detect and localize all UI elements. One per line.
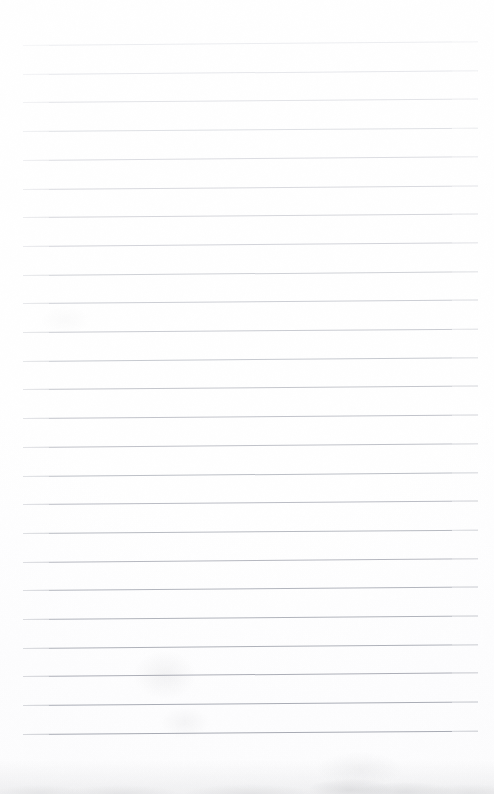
ruled-line <box>23 185 478 190</box>
ruled-line <box>23 99 478 103</box>
ruled-line <box>23 586 478 591</box>
ruled-line <box>23 357 478 362</box>
ruled-line <box>23 672 478 677</box>
ruled-line <box>23 41 478 46</box>
ruled-line <box>23 558 478 563</box>
ruled-line <box>23 329 478 333</box>
ruled-lines-group <box>0 0 494 794</box>
ruled-line <box>23 385 478 390</box>
ruled-line <box>23 271 478 276</box>
ruled-line <box>23 702 478 706</box>
ruled-line <box>23 156 478 161</box>
ruled-line <box>23 501 478 505</box>
ruled-line <box>23 415 478 419</box>
ruled-line <box>23 530 478 534</box>
ruled-line <box>23 214 478 218</box>
ruled-line <box>23 644 478 649</box>
ruled-line <box>23 242 478 247</box>
ruled-line <box>23 70 478 75</box>
scanned-page <box>0 0 494 794</box>
ruled-line <box>23 443 478 448</box>
ruled-line <box>23 128 478 132</box>
ruled-line <box>23 731 478 735</box>
ruled-line <box>23 300 478 304</box>
ruled-line <box>23 472 478 477</box>
ruled-line <box>23 616 478 620</box>
